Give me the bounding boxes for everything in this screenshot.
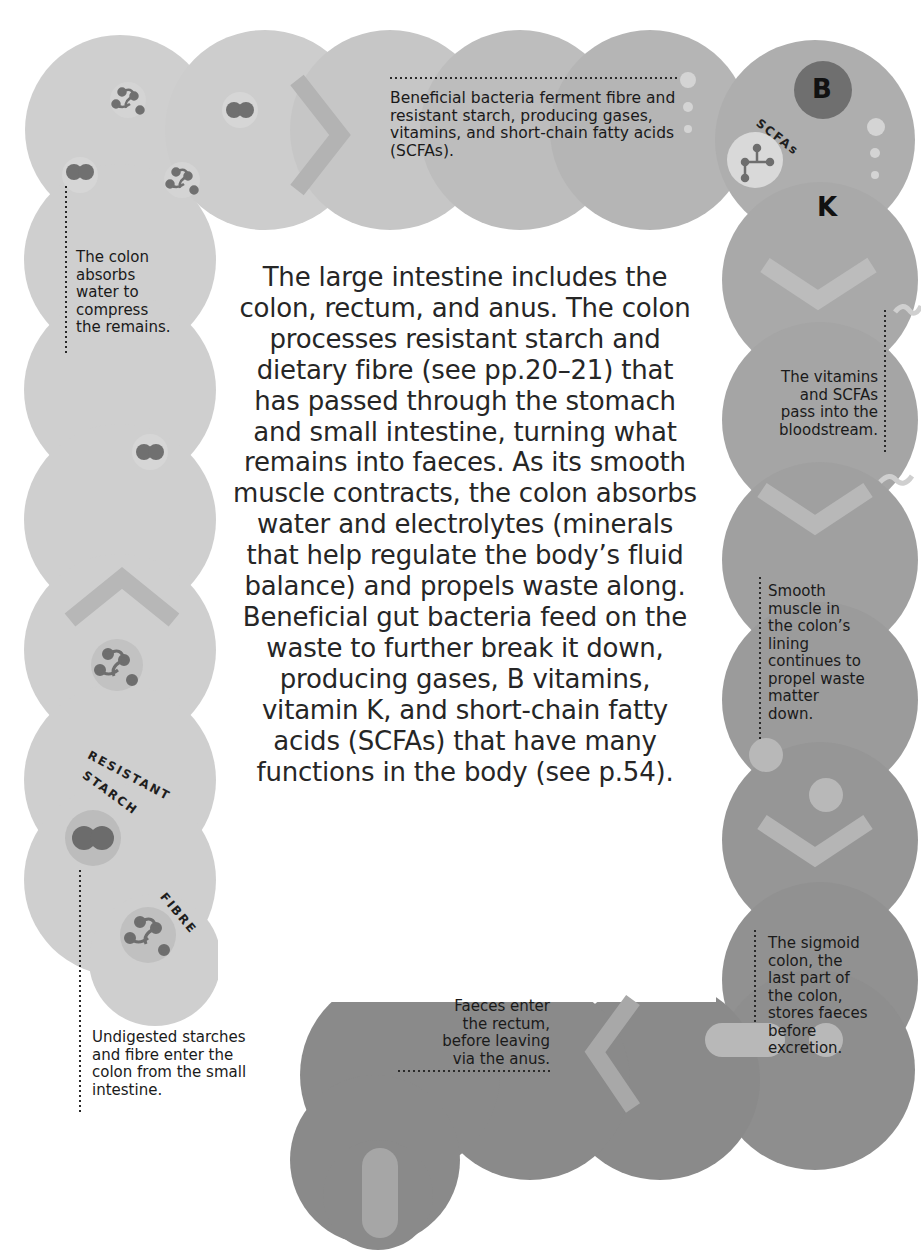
vitamin-b-label: B xyxy=(812,74,832,104)
fibre-molecule-icon xyxy=(110,82,146,118)
fibre-molecule-icon xyxy=(91,639,143,691)
fibre-molecule-icon xyxy=(164,162,200,198)
annotation-bloodstream: The vitamins and SCFAs pass into the blo… xyxy=(770,369,878,439)
starch-molecule-icon xyxy=(222,92,258,128)
annotation-rectum: Faeces enter the rectum, before leaving … xyxy=(432,998,550,1068)
annotation-sigmoid-colon: The sigmoid colon, the last part of the … xyxy=(768,935,868,1058)
starch-molecule-icon xyxy=(65,810,121,866)
fibre-molecule-icon xyxy=(120,907,176,963)
annotation-undigested: Undigested starches and fibre enter the … xyxy=(92,1029,262,1099)
starch-molecule-icon xyxy=(132,434,168,470)
annotation-smooth-muscle: Smooth muscle in the colon’s lining cont… xyxy=(768,583,868,723)
annotation-bacteria: Beneficial bacteria ferment fibre and re… xyxy=(390,90,680,160)
annotation-absorb-water: The colon absorbs water to compress the … xyxy=(76,249,176,337)
starch-molecule-icon xyxy=(62,157,98,193)
main-description: The large intestine includes the colon, … xyxy=(232,262,698,787)
vitamin-k-label: K xyxy=(817,192,837,222)
